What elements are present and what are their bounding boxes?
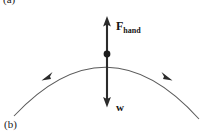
weight-label: w (116, 102, 124, 113)
motion-arrowhead-right-icon (162, 72, 173, 81)
panel-label-a: (a) (3, 0, 15, 5)
force-hand-label: Fhand (116, 20, 141, 35)
object-dot (104, 51, 111, 58)
diagram-canvas (0, 0, 203, 137)
force-hand-label-subscript: hand (123, 26, 140, 35)
physics-free-body-diagram: (a) (b) Fhand w (0, 0, 203, 137)
panel-label-b: (b) (4, 119, 17, 130)
motion-arrowhead-left-icon (42, 72, 53, 81)
